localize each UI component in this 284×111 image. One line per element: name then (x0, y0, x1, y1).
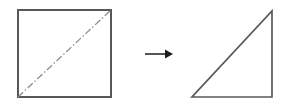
right-triangle-shape (192, 11, 272, 97)
fold-diagram (0, 0, 284, 111)
diagonal-fold-line (18, 10, 111, 97)
arrow-head-icon (165, 50, 173, 59)
diagram-canvas (0, 0, 284, 111)
